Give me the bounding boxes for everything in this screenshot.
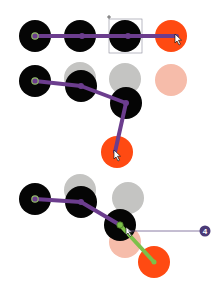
effector-dot [152,260,157,265]
root-ring [32,78,38,84]
ik-chain-diagram: 4 [0,0,221,287]
joint-ring [117,222,123,228]
root-ring [32,33,38,39]
root-ring [32,196,38,202]
bone-node [78,199,84,205]
crosshair-icon [107,15,111,19]
ghost-joint [112,182,144,214]
bone-node [78,83,84,89]
bone-node [125,33,131,39]
panel-constrained-pose: 4 [19,174,211,278]
panel-dragged-pose [19,62,187,168]
bone-node [79,33,85,39]
ghost-effector [155,64,187,96]
panel-rest-pose [19,15,187,53]
callout-label: 4 [203,227,208,236]
bone-node [123,100,129,106]
